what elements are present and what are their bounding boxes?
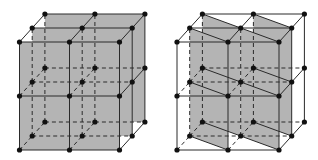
- lattice-node: [225, 93, 230, 98]
- lattice-node: [225, 147, 230, 152]
- lattice-node: [289, 79, 294, 84]
- lattice-node: [302, 11, 307, 16]
- lattice-node: [42, 119, 47, 124]
- edge: [177, 28, 190, 42]
- lattice-diagram: [0, 0, 318, 160]
- lattice-node: [142, 11, 147, 16]
- left-lattice-figure: [17, 11, 148, 152]
- right-lattice-figure: [174, 11, 307, 152]
- lattice-node: [80, 25, 85, 30]
- edge: [20, 28, 33, 42]
- lattice-node: [67, 93, 72, 98]
- lattice-node: [130, 25, 135, 30]
- lattice-node: [289, 133, 294, 138]
- lattice-node: [200, 119, 205, 124]
- lattice-node: [187, 133, 192, 138]
- edge: [190, 14, 203, 28]
- lattice-node: [67, 147, 72, 152]
- lattice-node: [80, 133, 85, 138]
- lattice-node: [30, 79, 35, 84]
- lattice-node: [251, 11, 256, 16]
- edge: [241, 14, 254, 28]
- lattice-node: [42, 11, 47, 16]
- hidden-edge: [177, 82, 190, 96]
- lattice-node: [130, 133, 135, 138]
- lattice-node: [225, 39, 230, 44]
- lattice-node: [17, 147, 22, 152]
- edge: [120, 136, 133, 150]
- lattice-node: [117, 147, 122, 152]
- lattice-node: [302, 65, 307, 70]
- edge: [279, 136, 292, 150]
- lattice-node: [238, 25, 243, 30]
- lattice-node: [251, 119, 256, 124]
- lattice-node: [174, 39, 179, 44]
- lattice-node: [276, 93, 281, 98]
- edge: [292, 122, 305, 136]
- lattice-node: [238, 79, 243, 84]
- lattice-node: [251, 65, 256, 70]
- lattice-node: [238, 133, 243, 138]
- lattice-node: [187, 79, 192, 84]
- lattice-node: [276, 147, 281, 152]
- edge: [32, 14, 45, 28]
- lattice-node: [289, 25, 294, 30]
- edge: [292, 14, 305, 28]
- lattice-node: [30, 133, 35, 138]
- lattice-node: [174, 93, 179, 98]
- lattice-node: [142, 65, 147, 70]
- lattice-node: [142, 119, 147, 124]
- lattice-node: [92, 11, 97, 16]
- lattice-node: [200, 65, 205, 70]
- lattice-node: [92, 65, 97, 70]
- lattice-node: [67, 39, 72, 44]
- lattice-node: [30, 25, 35, 30]
- lattice-node: [302, 119, 307, 124]
- lattice-node: [117, 93, 122, 98]
- lattice-node: [17, 39, 22, 44]
- lattice-node: [92, 119, 97, 124]
- edge: [292, 68, 305, 82]
- hidden-edge: [228, 136, 241, 150]
- hidden-edge: [177, 136, 190, 150]
- lattice-node: [276, 39, 281, 44]
- lattice-node: [130, 79, 135, 84]
- lattice-node: [187, 25, 192, 30]
- lattice-node: [200, 11, 205, 16]
- lattice-node: [117, 39, 122, 44]
- lattice-node: [80, 79, 85, 84]
- edge: [132, 122, 145, 136]
- lattice-node: [42, 65, 47, 70]
- lattice-node: [17, 93, 22, 98]
- lattice-node: [174, 147, 179, 152]
